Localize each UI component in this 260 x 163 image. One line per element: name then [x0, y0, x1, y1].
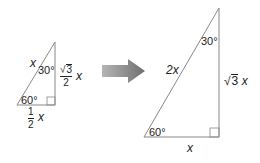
small-vertical-side-variable: x: [76, 70, 82, 82]
arrow-icon: [102, 59, 145, 83]
small-hypotenuse-label: x: [30, 57, 36, 69]
big-top-angle-label: 30°: [201, 36, 218, 47]
big-triangle: [144, 8, 219, 137]
big-vertical-side-label: √3 x: [224, 74, 248, 87]
right-angle-marker: [47, 97, 55, 105]
small-vertical-side-fraction: √3 2: [60, 64, 72, 88]
small-base-variable: x: [38, 111, 44, 123]
triangle-scaling-diagram: x 30° 60° √3 2 x 1 2 x 2x 30° 60° √3 x x: [0, 0, 260, 163]
right-angle-marker: [210, 128, 219, 137]
diagram-graphics: [0, 0, 260, 163]
big-bottom-angle-label: 60°: [149, 127, 166, 138]
small-top-angle-label: 30°: [38, 65, 55, 76]
small-bottom-angle-label: 60°: [21, 95, 38, 106]
big-hypotenuse-label: 2x: [166, 64, 179, 76]
small-base-fraction: 1 2: [28, 107, 34, 130]
big-base-label: x: [187, 142, 193, 154]
